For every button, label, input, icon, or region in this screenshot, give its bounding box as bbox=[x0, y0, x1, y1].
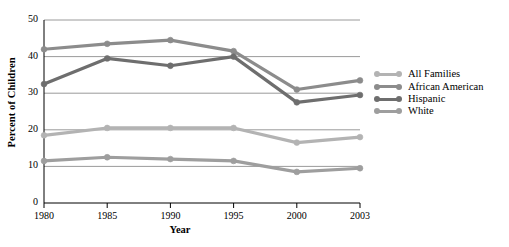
legend-label: African American bbox=[408, 81, 484, 93]
x-tick-label: 2000 bbox=[277, 210, 317, 221]
data-point bbox=[294, 169, 300, 175]
data-point bbox=[231, 158, 237, 164]
legend-item-white: White bbox=[374, 105, 509, 117]
legend-label: Hispanic bbox=[408, 93, 445, 105]
legend-swatch-icon bbox=[374, 94, 402, 104]
y-tick-label: 30 bbox=[12, 86, 38, 97]
y-tick-label: 0 bbox=[12, 196, 38, 207]
line-chart-plot bbox=[0, 0, 509, 247]
series-line bbox=[44, 57, 360, 103]
legend-label: White bbox=[408, 105, 434, 117]
y-axis-title: Percent of Children bbox=[0, 0, 22, 205]
series-line bbox=[44, 157, 360, 172]
y-tick-label: 20 bbox=[12, 123, 38, 134]
data-point bbox=[294, 99, 300, 105]
x-axis-title: Year bbox=[0, 224, 360, 235]
data-point bbox=[104, 41, 110, 47]
x-tick-label: 1990 bbox=[150, 210, 190, 221]
data-point bbox=[231, 54, 237, 60]
series-white bbox=[41, 154, 363, 174]
data-point bbox=[294, 87, 300, 93]
data-point bbox=[357, 134, 363, 140]
data-point bbox=[357, 165, 363, 171]
legend-item-african-american: African American bbox=[374, 80, 509, 92]
data-point bbox=[168, 156, 174, 162]
x-tick-label: 1980 bbox=[24, 210, 64, 221]
x-tick-label: 1985 bbox=[87, 210, 127, 221]
data-point bbox=[231, 48, 237, 54]
data-point bbox=[41, 132, 47, 138]
data-point bbox=[104, 125, 110, 131]
data-point bbox=[41, 46, 47, 52]
data-point bbox=[168, 63, 174, 69]
chart-figure: Percent of Children Year 01020304050 198… bbox=[0, 0, 509, 247]
data-point bbox=[104, 56, 110, 62]
data-point bbox=[41, 158, 47, 164]
legend-swatch-icon bbox=[374, 69, 402, 79]
series-all-families bbox=[41, 125, 363, 145]
x-tick-label: 1995 bbox=[214, 210, 254, 221]
series-hispanic bbox=[41, 54, 363, 106]
data-point bbox=[231, 125, 237, 131]
data-point bbox=[41, 81, 47, 87]
legend-swatch-icon bbox=[374, 106, 402, 116]
chart-legend: All Families African American Hispanic bbox=[374, 68, 509, 118]
y-tick-label: 10 bbox=[12, 159, 38, 170]
data-point bbox=[294, 140, 300, 146]
data-point bbox=[104, 154, 110, 160]
x-tick-label: 2003 bbox=[340, 210, 380, 221]
y-axis-title-text: Percent of Children bbox=[6, 57, 17, 147]
legend-label: All Families bbox=[408, 68, 460, 80]
data-point bbox=[168, 37, 174, 43]
y-tick-label: 50 bbox=[12, 13, 38, 24]
legend-item-all-families: All Families bbox=[374, 68, 509, 80]
y-tick-label: 40 bbox=[12, 50, 38, 61]
data-point bbox=[357, 92, 363, 98]
data-point bbox=[357, 77, 363, 83]
data-point bbox=[168, 125, 174, 131]
legend-swatch-icon bbox=[374, 82, 402, 92]
legend-item-hispanic: Hispanic bbox=[374, 93, 509, 105]
